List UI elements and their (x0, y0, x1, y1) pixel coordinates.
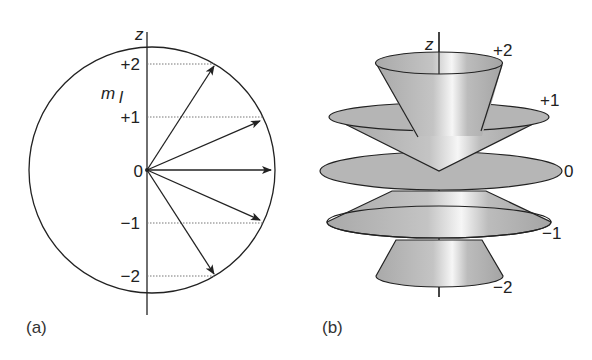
panel-label-a: (a) (26, 318, 47, 337)
panel-a: z m l +2 +1 0 −1 −2 (a) (26, 25, 275, 337)
vector-minus2 (147, 170, 214, 274)
cone-label-minus1: −1 (542, 224, 561, 243)
z-axis-label-b: z (424, 35, 434, 54)
vector-plus2 (147, 66, 214, 170)
cone-label-minus2: −2 (493, 278, 512, 297)
momentum-vectors (147, 66, 271, 274)
panel-label-b: (b) (322, 318, 343, 337)
ml-symbol: m (101, 84, 115, 103)
vector-minus1 (147, 170, 260, 220)
cone-label-plus2: +2 (493, 41, 512, 60)
cone-label-zero: 0 (564, 162, 573, 181)
cone-minus1 (327, 191, 551, 238)
panel-b: z +2 +1 0 −1 −2 (b) (320, 32, 573, 337)
vector-plus1 (147, 121, 260, 170)
cone-label-plus1: +1 (540, 91, 559, 110)
tick-label-zero: 0 (134, 162, 143, 181)
z-axis-label-a: z (134, 25, 144, 44)
ml-subscript: l (119, 88, 124, 107)
tick-label-minus2: −2 (121, 267, 140, 286)
cone-minus2 (376, 240, 503, 287)
tick-label-minus1: −1 (121, 214, 140, 233)
tick-label-plus2: +2 (121, 55, 140, 74)
tick-label-plus1: +1 (121, 108, 140, 127)
angular-momentum-figure: z m l +2 +1 0 −1 −2 (a) (0, 0, 592, 360)
